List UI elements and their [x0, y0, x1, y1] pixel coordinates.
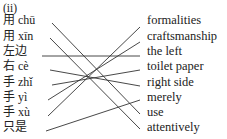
matching-lines: [0, 0, 227, 139]
match-line: [48, 27, 140, 116]
match-line: [52, 23, 140, 114]
